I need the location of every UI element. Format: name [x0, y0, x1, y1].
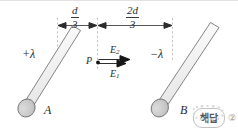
dimension-right-arrowhead-end — [164, 23, 172, 29]
dimension-right-numerator: 2d — [126, 5, 139, 16]
dimension-label-left: d 3 — [71, 5, 79, 30]
field-label-e1: E1 — [110, 69, 120, 80]
dimension-left-arrowhead-start — [58, 23, 66, 29]
rod-a-body — [23, 26, 81, 111]
physics-figure: d 3 2d 3 +λ −λ P E2 E1 A B — [0, 0, 238, 131]
rod-a-charge-label: +λ — [22, 48, 35, 60]
watermark-text: 해답 — [200, 110, 218, 125]
rod-a-letter: A — [44, 104, 51, 116]
dimension-right-denominator: 3 — [126, 19, 139, 30]
watermark: 해답 ② — [170, 107, 236, 129]
dimension-left-numerator: d — [71, 5, 79, 16]
dimension-right-arrowhead-start — [98, 23, 106, 29]
rod-b-body — [156, 23, 220, 111]
watermark-answer-number: ② — [228, 113, 236, 123]
field-label-e1-subscript: 1 — [116, 72, 120, 80]
field-label-e2-subscript: 2 — [116, 48, 120, 56]
dimension-label-right: 2d 3 — [126, 5, 139, 30]
point-p-label: P — [86, 56, 92, 66]
field-vector-e2 — [99, 56, 131, 64]
watermark-badge: 해답 — [193, 108, 225, 128]
rod-b-charge-label: −λ — [150, 48, 163, 60]
dimension-left-arrowhead-end — [89, 23, 97, 29]
dimension-left-denominator: 3 — [71, 19, 79, 30]
field-label-e2: E2 — [110, 45, 120, 56]
